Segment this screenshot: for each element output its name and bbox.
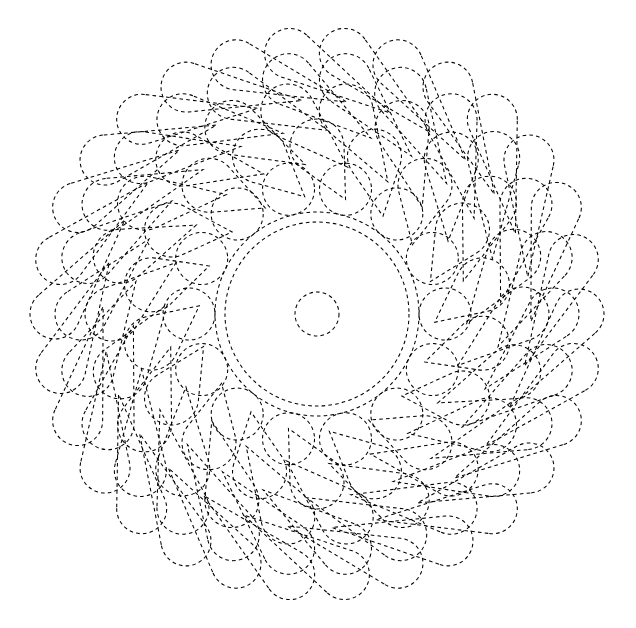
mandala-svg bbox=[0, 0, 636, 628]
artwork-canvas bbox=[0, 0, 636, 628]
canvas-background bbox=[0, 0, 636, 628]
